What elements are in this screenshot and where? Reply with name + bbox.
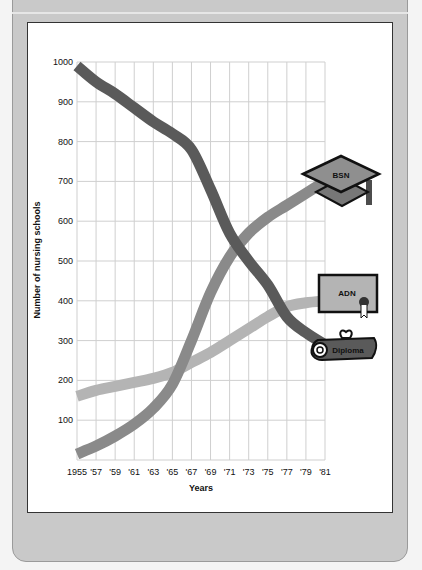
series-lines xyxy=(77,66,325,454)
y-tick-label: 500 xyxy=(58,256,73,266)
x-tick-label: '61 xyxy=(128,467,140,477)
x-axis-title: Years xyxy=(189,483,213,493)
y-tick-label: 1000 xyxy=(53,57,73,67)
x-tick-label: '79 xyxy=(300,467,312,477)
diploma-text: Diploma xyxy=(332,346,364,355)
adn-text: ADN xyxy=(338,289,356,298)
x-tick-label: '69 xyxy=(205,467,217,477)
diploma-label: Diploma xyxy=(311,330,376,360)
grid xyxy=(77,62,325,460)
x-tick-label: '77 xyxy=(281,467,293,477)
x-tick-label: '75 xyxy=(262,467,274,477)
x-tick-label: '73 xyxy=(243,467,255,477)
x-tick-label: '71 xyxy=(224,467,236,477)
y-axis-ticks: 1002003004005006007008009001000 xyxy=(53,57,73,425)
y-tick-label: 100 xyxy=(58,415,73,425)
x-axis-ticks: 1955'57'59'61'63'65'67'69'71'73'75'77'79… xyxy=(67,467,331,477)
x-tick-label: '59 xyxy=(109,467,121,477)
y-tick-label: 600 xyxy=(58,216,73,226)
y-tick-label: 700 xyxy=(58,176,73,186)
x-tick-label: '65 xyxy=(167,467,179,477)
x-tick-label: '57 xyxy=(90,467,102,477)
y-axis-title: Number of nursing schools xyxy=(32,201,42,318)
x-tick-label: 1955 xyxy=(67,467,87,477)
line-chart: 1002003004005006007008009001000 1955'57'… xyxy=(0,0,422,570)
y-tick-label: 800 xyxy=(58,137,73,147)
adn-label: ADN xyxy=(319,275,377,318)
bsn-text: BSN xyxy=(333,171,350,180)
y-tick-label: 200 xyxy=(58,375,73,385)
y-tick-label: 300 xyxy=(58,336,73,346)
y-tick-label: 400 xyxy=(58,296,73,306)
x-tick-label: '63 xyxy=(147,467,159,477)
y-tick-label: 900 xyxy=(58,97,73,107)
x-tick-label: '81 xyxy=(319,467,331,477)
ribbon-bow-icon xyxy=(340,330,351,338)
x-tick-label: '67 xyxy=(186,467,198,477)
